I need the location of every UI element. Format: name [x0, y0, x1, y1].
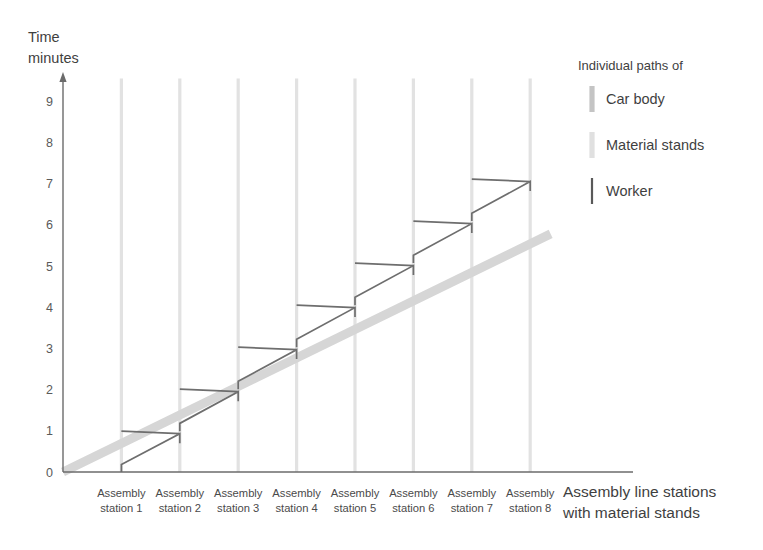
- legend-title: Individual paths of: [578, 58, 683, 73]
- x-axis-title-line-1: Assembly line stations: [563, 483, 717, 500]
- category-label-6-line-1: Assembly: [389, 487, 438, 499]
- category-label-5-line-1: Assembly: [331, 487, 380, 499]
- y-tick-label-6: 6: [46, 218, 53, 232]
- y-axis-arrow: [59, 72, 66, 82]
- x-axis-title: Assembly line stationswith material stan…: [562, 483, 717, 521]
- worker-path-cycle-5: [355, 263, 413, 305]
- category-label-2-line-1: Assembly: [156, 487, 205, 499]
- category-label-2-line-2: station 2: [159, 502, 201, 514]
- category-label-3-line-2: station 3: [217, 502, 259, 514]
- y-tick-label-2: 2: [46, 383, 53, 397]
- y-axis-title: Timeminutes: [28, 29, 79, 66]
- category-label-8-line-2: station 8: [509, 502, 551, 514]
- y-tick-label-7: 7: [46, 177, 53, 191]
- worker-path-cycle-6: [413, 221, 471, 263]
- category-label-4-line-2: station 4: [275, 502, 317, 514]
- x-axis-title-line-2: with material stands: [562, 504, 700, 521]
- category-label-8-line-1: Assembly: [506, 487, 555, 499]
- y-axis-title-line-1: Time: [28, 29, 60, 45]
- y-axis-ticks: 0123456789: [46, 95, 53, 480]
- category-label-5-line-2: station 5: [334, 502, 376, 514]
- category-label-6-line-2: station 6: [392, 502, 434, 514]
- axes: [59, 72, 633, 472]
- car-body-path: [63, 234, 551, 472]
- y-axis-title-line-2: minutes: [28, 50, 79, 66]
- legend-label-3: Worker: [606, 183, 653, 199]
- x-axis-category-labels: Assemblystation 1Assemblystation 2Assemb…: [97, 487, 555, 514]
- y-tick-label-9: 9: [46, 95, 53, 109]
- legend: Individual paths ofCar bodyMaterial stan…: [578, 58, 704, 204]
- category-label-3-line-1: Assembly: [214, 487, 263, 499]
- y-tick-label-0: 0: [46, 466, 53, 480]
- category-label-1-line-2: station 1: [100, 502, 142, 514]
- y-tick-label-3: 3: [46, 342, 53, 356]
- car-body-band: [63, 234, 551, 472]
- category-label-4-line-1: Assembly: [272, 487, 321, 499]
- category-label-7-line-2: station 7: [451, 502, 493, 514]
- worker-paths: [121, 179, 530, 472]
- legend-label-1: Car body: [606, 91, 666, 107]
- y-tick-label-1: 1: [46, 424, 53, 438]
- chart-container: 0123456789TimeminutesAssemblystation 1As…: [0, 0, 763, 550]
- legend-label-2: Material stands: [606, 137, 704, 153]
- y-tick-label-5: 5: [46, 260, 53, 274]
- category-label-1-line-1: Assembly: [97, 487, 146, 499]
- category-label-7-line-1: Assembly: [448, 487, 497, 499]
- y-tick-label-8: 8: [46, 136, 53, 150]
- worker-path-cycle-7: [472, 179, 530, 221]
- process-time-chart: 0123456789TimeminutesAssemblystation 1As…: [0, 0, 763, 550]
- y-tick-label-4: 4: [46, 301, 53, 315]
